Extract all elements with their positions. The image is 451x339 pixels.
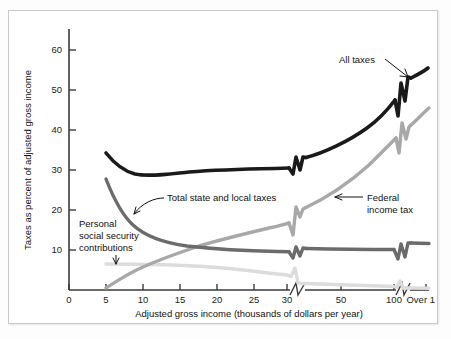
series-total-state-and-local bbox=[106, 179, 429, 259]
x-axis-title: Adjusted gross income (thousands of doll… bbox=[135, 308, 363, 319]
annotation-personal-social-security: Personal social security contributions bbox=[79, 218, 139, 264]
y-tick-label-30: 30 bbox=[51, 164, 62, 175]
x-tick-label-20: 20 bbox=[212, 294, 223, 305]
y-tick-label-20: 20 bbox=[51, 204, 62, 215]
x-tick-label-5: 5 bbox=[103, 294, 108, 305]
annotation-federal-income-tax: Federal income tax bbox=[335, 192, 413, 215]
x-axis: 0 5 10 15 20 25 30 50 100 Over 100 Adjus… bbox=[66, 283, 435, 319]
x-tick-label-15: 15 bbox=[175, 294, 186, 305]
annotation-federal-income-tax-line2: income tax bbox=[367, 204, 413, 215]
y-tick-label-10: 10 bbox=[51, 244, 62, 255]
y-axis-title: Taxes as percent of adjusted gross incom… bbox=[22, 70, 33, 250]
y-ticks bbox=[69, 50, 76, 250]
x-tick-label-10: 10 bbox=[138, 294, 149, 305]
x-tick-label-25: 25 bbox=[249, 294, 260, 305]
series-personal-social-security bbox=[106, 264, 429, 288]
y-tick-label-40: 40 bbox=[51, 124, 62, 135]
x-tick-label-100: 100 bbox=[386, 294, 402, 305]
annotation-total-state-and-local-label: Total state and local taxes bbox=[167, 192, 277, 203]
annotation-social-line3: contributions bbox=[79, 242, 133, 253]
annotation-social-line2: social security bbox=[79, 230, 139, 241]
annotation-all-taxes-label: All taxes bbox=[339, 54, 375, 65]
line-chart: 10 20 30 40 50 60 Taxes as percent of ad… bbox=[9, 11, 435, 321]
y-tick-label-50: 50 bbox=[51, 84, 62, 95]
x-tick-label-0: 0 bbox=[66, 294, 71, 305]
x-tick-label-over-100: Over 100 bbox=[406, 294, 435, 305]
series-all-taxes bbox=[106, 68, 428, 175]
annotation-social-line1: Personal bbox=[79, 218, 117, 229]
annotation-all-taxes: All taxes bbox=[339, 54, 408, 77]
annotation-total-state-and-local: Total state and local taxes bbox=[134, 192, 277, 214]
x-tick-label-50: 50 bbox=[336, 294, 347, 305]
figure-plate: 10 20 30 40 50 60 Taxes as percent of ad… bbox=[8, 10, 438, 324]
figure-frame: 10 20 30 40 50 60 Taxes as percent of ad… bbox=[0, 0, 451, 339]
x-tick-label-30: 30 bbox=[282, 294, 293, 305]
annotation-federal-income-tax-line1: Federal bbox=[367, 192, 399, 203]
y-axis: 10 20 30 40 50 60 Taxes as percent of ad… bbox=[22, 29, 76, 290]
y-tick-label-60: 60 bbox=[51, 44, 62, 55]
